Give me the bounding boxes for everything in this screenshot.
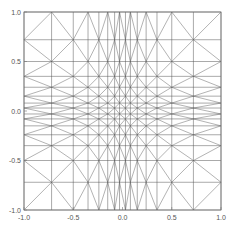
mesh-line xyxy=(115,12,120,40)
mesh-line xyxy=(115,119,120,126)
y-tick-label: -1.0 xyxy=(9,207,21,214)
mesh-line xyxy=(193,96,221,103)
mesh-line xyxy=(24,76,52,87)
mesh-line xyxy=(24,87,52,96)
mesh-line xyxy=(108,114,115,119)
mesh-line xyxy=(130,62,137,77)
mesh-line xyxy=(108,182,115,210)
mesh-line xyxy=(172,40,194,62)
mesh-line xyxy=(146,103,157,108)
mesh-line xyxy=(157,87,172,96)
mesh-line xyxy=(172,62,194,77)
mesh-line xyxy=(137,76,146,87)
mesh-line xyxy=(146,76,157,87)
mesh-line xyxy=(130,135,137,146)
mesh-line xyxy=(73,108,88,114)
mesh-line xyxy=(137,161,146,183)
mesh-line xyxy=(52,76,74,87)
mesh-line xyxy=(157,96,172,103)
mesh-line xyxy=(120,126,126,135)
mesh-line xyxy=(24,135,52,146)
mesh-line xyxy=(157,103,172,108)
mesh-line xyxy=(52,87,74,96)
mesh-line xyxy=(52,119,74,126)
mesh-line xyxy=(73,182,88,210)
mesh-line xyxy=(108,40,115,62)
mesh-line xyxy=(115,126,120,135)
mesh-line xyxy=(172,146,194,161)
mesh-line xyxy=(88,62,99,77)
mesh-line xyxy=(172,103,194,108)
mesh-line xyxy=(99,114,108,119)
mesh-line xyxy=(137,87,146,96)
mesh-line xyxy=(52,114,74,119)
mesh-line xyxy=(115,103,120,108)
mesh-line xyxy=(24,182,52,210)
mesh-line xyxy=(146,161,157,183)
mesh-line xyxy=(99,96,108,103)
mesh-line xyxy=(172,108,194,114)
mesh-line xyxy=(157,182,172,210)
mesh-line xyxy=(157,119,172,126)
mesh-line xyxy=(73,87,88,96)
mesh-line xyxy=(130,12,137,40)
mesh-line xyxy=(88,103,99,108)
mesh-line xyxy=(125,76,130,87)
mesh-line xyxy=(130,103,137,108)
mesh-line xyxy=(125,62,130,77)
mesh-line xyxy=(172,96,194,103)
mesh-line xyxy=(172,119,194,126)
mesh-line xyxy=(130,40,137,62)
mesh-line xyxy=(99,182,108,210)
mesh-line xyxy=(137,96,146,103)
mesh-line xyxy=(125,119,130,126)
mesh-line xyxy=(24,40,52,62)
mesh-line xyxy=(52,62,74,77)
mesh-line xyxy=(125,87,130,96)
mesh-line xyxy=(108,103,115,108)
mesh-line xyxy=(193,114,221,119)
mesh-line xyxy=(125,114,130,119)
mesh-line xyxy=(99,103,108,108)
mesh-line xyxy=(73,96,88,103)
mesh-line xyxy=(146,12,157,40)
mesh-line xyxy=(193,62,221,77)
mesh-line xyxy=(193,126,221,135)
mesh-line xyxy=(125,135,130,146)
mesh-line xyxy=(172,12,194,40)
mesh-line xyxy=(108,96,115,103)
mesh-line xyxy=(88,108,99,114)
mesh-line xyxy=(137,114,146,119)
mesh-line xyxy=(99,40,108,62)
mesh-line xyxy=(130,108,137,114)
mesh-line xyxy=(146,62,157,77)
mesh-line xyxy=(130,76,137,87)
mesh-line xyxy=(115,146,120,161)
mesh-line xyxy=(120,108,126,114)
mesh-line xyxy=(52,182,74,210)
mesh-line xyxy=(73,119,88,126)
mesh-line xyxy=(99,126,108,135)
mesh-line xyxy=(146,108,157,114)
mesh-line xyxy=(120,103,126,108)
x-tick-label: -0.5 xyxy=(67,214,79,221)
mesh-line xyxy=(108,119,115,126)
mesh-line xyxy=(88,40,99,62)
mesh-line xyxy=(88,114,99,119)
mesh-line xyxy=(120,62,126,77)
mesh-line xyxy=(88,87,99,96)
mesh-line xyxy=(120,182,126,210)
mesh-line xyxy=(146,96,157,103)
mesh-line xyxy=(137,146,146,161)
mesh-line xyxy=(193,40,221,62)
mesh-line xyxy=(157,126,172,135)
mesh-line xyxy=(172,135,194,146)
mesh-line xyxy=(146,135,157,146)
mesh-line xyxy=(146,114,157,119)
mesh-line xyxy=(125,146,130,161)
mesh-line xyxy=(172,126,194,135)
mesh-line xyxy=(193,12,221,40)
mesh-line xyxy=(146,87,157,96)
mesh-line xyxy=(73,126,88,135)
mesh-line xyxy=(24,103,52,108)
